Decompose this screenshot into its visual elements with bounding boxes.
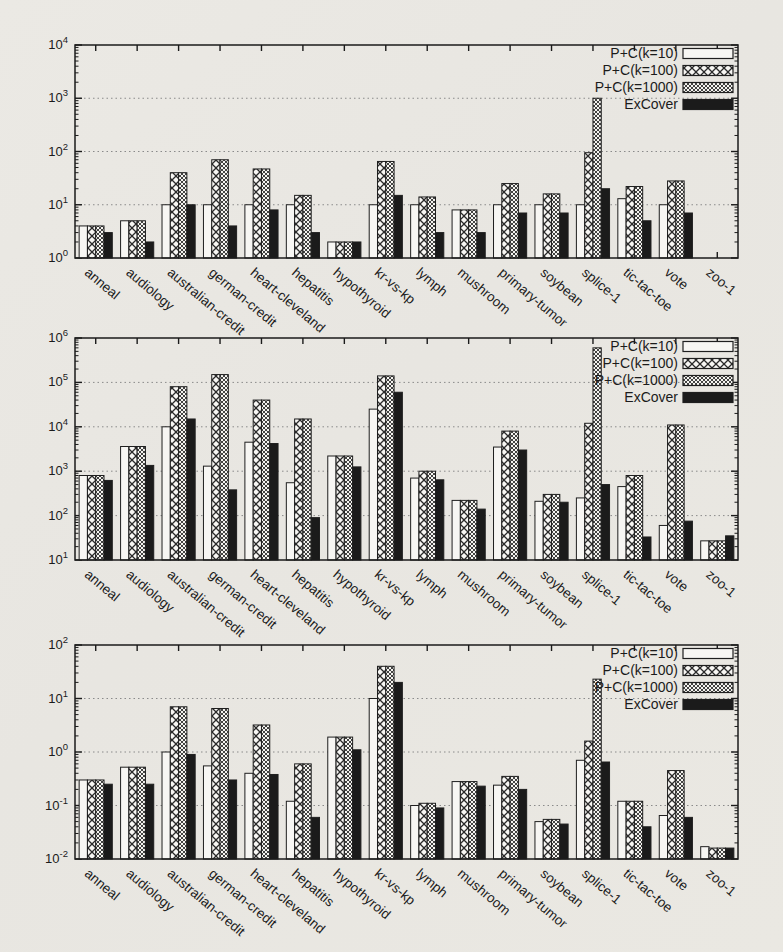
bar-ExCover-hepatitis (311, 233, 319, 258)
bar-P+C(k=10)-tic-tac-toe (618, 199, 626, 258)
bar-P+C(k=100)-tic-tac-toe (626, 801, 634, 859)
bar-ExCover-mushroom (477, 786, 485, 859)
bar-P+C(k=10)-primary-tumor (494, 785, 502, 859)
bar-P+C(k=10)-audiology (121, 221, 129, 258)
bar-P+C(k=10)-german-credit (203, 466, 211, 560)
legend-label: P+C(k=100) (603, 662, 678, 678)
legend-swatch-P+C(k=100) (683, 666, 733, 676)
bar-P+C(k=10)-hypothyroid (328, 456, 336, 560)
bar-ExCover-heart-cleveland (270, 774, 278, 859)
bar-P+C(k=100)-splice-1 (585, 153, 593, 258)
bar-P+C(k=10)-australian-credit (162, 427, 170, 560)
bar-P+C(k=1000)-heart-cleveland (261, 400, 269, 560)
x-category-label: anneal (82, 265, 123, 303)
bar-ExCover-tic-tac-toe (643, 221, 651, 258)
bar-P+C(k=1000)-lymph (427, 803, 435, 859)
bar-P+C(k=100)-soybean (543, 494, 551, 560)
legend-label: ExCover (624, 389, 678, 405)
legend-swatch-P+C(k=10) (683, 649, 733, 659)
bar-P+C(k=1000)-mushroom (469, 210, 477, 258)
x-category-label: zoo-1 (703, 567, 739, 600)
bar-P+C(k=10)-german-credit (203, 766, 211, 859)
bar-P+C(k=1000)-lymph (427, 471, 435, 560)
bar-ExCover-heart-cleveland (270, 210, 278, 258)
legend-swatch-P+C(k=100) (683, 359, 733, 369)
bar-ExCover-audiology (145, 465, 153, 560)
bar-P+C(k=1000)-soybean (552, 194, 560, 258)
bar-P+C(k=100)-german-credit (212, 709, 220, 859)
bar-P+C(k=100)-anneal (87, 476, 95, 560)
y-tick-label: 104 (48, 416, 68, 434)
bar-P+C(k=10)-hepatitis (286, 483, 294, 560)
bar-P+C(k=1000)-soybean (552, 494, 560, 560)
x-category-label: zoo-1 (703, 265, 739, 298)
bar-P+C(k=100)-tic-tac-toe (626, 476, 634, 560)
bar-P+C(k=100)-splice-1 (585, 423, 593, 560)
bar-ExCover-lymph (436, 233, 444, 258)
legend-swatch-P+C(k=10) (683, 342, 733, 352)
x-category-label: zoo-1 (703, 866, 739, 899)
bar-P+C(k=1000)-australian-credit (179, 173, 187, 258)
bar-P+C(k=100)-mushroom (460, 782, 468, 859)
chart-3: 10-210-1100101102annealaudiologyaustrali… (45, 634, 739, 939)
legend-label: P+C(k=10) (610, 338, 678, 354)
bar-P+C(k=10)-tic-tac-toe (618, 801, 626, 859)
legend-swatch-ExCover (683, 100, 733, 110)
bar-P+C(k=1000)-vote (676, 771, 684, 859)
bar-ExCover-primary-tumor (518, 789, 526, 859)
bar-P+C(k=1000)-primary-tumor (510, 776, 518, 859)
bar-P+C(k=10)-hypothyroid (328, 242, 336, 258)
bar-P+C(k=100)-mushroom (460, 210, 468, 258)
bar-ExCover-lymph (436, 808, 444, 859)
bar-P+C(k=10)-kr-vs-kp (369, 205, 377, 258)
bar-P+C(k=10)-heart-cleveland (245, 773, 253, 859)
bar-P+C(k=1000)-mushroom (469, 782, 477, 859)
bar-P+C(k=100)-kr-vs-kp (377, 161, 385, 258)
bar-P+C(k=10)-tic-tac-toe (618, 487, 626, 560)
bar-P+C(k=100)-vote (668, 771, 676, 859)
x-category-label: splice-1 (579, 265, 624, 306)
bar-P+C(k=10)-vote (659, 525, 667, 560)
bar-ExCover-kr-vs-kp (394, 392, 402, 560)
legend-swatch-ExCover (683, 700, 733, 710)
bar-P+C(k=1000)-hepatitis (303, 419, 311, 560)
bar-charts-figure: 100101102103104annealaudiologyaustralian… (0, 0, 783, 952)
bar-P+C(k=100)-primary-tumor (502, 184, 510, 258)
bar-ExCover-mushroom (477, 233, 485, 258)
bar-P+C(k=10)-primary-tumor (494, 447, 502, 560)
bar-P+C(k=10)-vote (659, 205, 667, 258)
bar-P+C(k=10)-australian-credit (162, 752, 170, 859)
bar-P+C(k=1000)-anneal (96, 226, 104, 258)
y-tick-label: 105 (48, 371, 68, 389)
bar-ExCover-zoo-1 (726, 536, 734, 560)
bar-P+C(k=10)-splice-1 (576, 205, 584, 258)
bar-P+C(k=10)-hepatitis (286, 801, 294, 859)
bar-P+C(k=1000)-vote (676, 425, 684, 560)
legend-swatch-P+C(k=1000) (683, 83, 733, 93)
legend-swatch-ExCover (683, 393, 733, 403)
bar-ExCover-audiology (145, 784, 153, 859)
bar-P+C(k=1000)-anneal (96, 780, 104, 859)
x-category-label: anneal (82, 866, 123, 904)
bar-P+C(k=10)-heart-cleveland (245, 205, 253, 258)
legend-label: P+C(k=10) (610, 45, 678, 61)
bar-P+C(k=10)-soybean (535, 822, 543, 859)
bar-ExCover-hypothyroid (353, 242, 361, 258)
bar-ExCover-hypothyroid (353, 750, 361, 859)
bar-P+C(k=10)-splice-1 (576, 498, 584, 560)
bar-P+C(k=1000)-lymph (427, 197, 435, 258)
bar-ExCover-anneal (104, 233, 112, 258)
bar-P+C(k=100)-anneal (87, 780, 95, 859)
bar-P+C(k=10)-kr-vs-kp (369, 699, 377, 860)
legend-label: P+C(k=10) (610, 645, 678, 661)
bar-P+C(k=10)-lymph (411, 478, 419, 560)
x-category-label: lymph (413, 567, 450, 602)
y-tick-label: 100 (48, 741, 68, 759)
bar-P+C(k=100)-audiology (129, 447, 137, 560)
bar-P+C(k=10)-anneal (79, 780, 87, 859)
legend-label: P+C(k=1000) (595, 372, 678, 388)
y-tick-label: 10-2 (45, 848, 68, 866)
bar-ExCover-hepatitis (311, 817, 319, 859)
bar-ExCover-german-credit (228, 226, 236, 258)
y-tick-label: 102 (48, 505, 68, 523)
